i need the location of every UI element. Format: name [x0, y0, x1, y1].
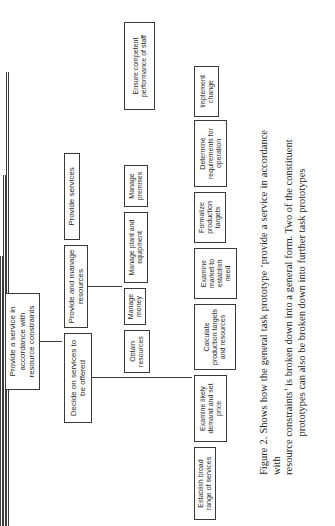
node-ensure-staff-label: Ensure competent performance of staff [132, 25, 148, 107]
node-manage-plant: Manage plant and equipment [124, 212, 148, 283]
figure-caption: Figure 2. Shows how the general task pro… [258, 130, 308, 475]
hierarchy-diagram: Provide a service in accordance with res… [0, 0, 335, 526]
node-decide-services: Decide on services to be offered [64, 333, 92, 423]
node-obtain-resources-label: Obtain resources [129, 333, 145, 370]
node-manage-plant-label: Manage plant and equipment [128, 215, 144, 280]
node-examine-demand-label: Examine likely demand and set price [199, 378, 223, 439]
node-provide-services: Provide services [64, 153, 80, 240]
node-obtain-resources: Obtain resources [124, 330, 150, 373]
node-manage-money: Manage money [124, 288, 146, 325]
node-provide-services-label: Provide services [67, 167, 77, 226]
decide-connector [92, 377, 192, 378]
resources-connector [88, 286, 122, 287]
node-manage-premises-label: Manage premises [128, 168, 144, 204]
node-manage-premises: Manage premises [124, 165, 148, 207]
root-connector-v [40, 341, 62, 342]
node-provide-manage-resources-label: Provide and manage resources [67, 248, 86, 325]
caption-line-2: resource constraints’ is broken down int… [283, 130, 296, 475]
node-calculate-targets: Calculate production targets and resourc… [194, 304, 236, 370]
root-node-label: Provide a service in accordance with res… [8, 296, 37, 387]
caption-line-1: Figure 2. Shows how the general task pro… [258, 130, 283, 475]
node-implement-change: Implement change [194, 66, 219, 117]
node-provide-manage-resources: Provide and manage resources [64, 245, 88, 328]
node-determine-requirements-label: Determine requirements for operation [199, 123, 223, 184]
node-examine-market-label: Examine market to establish need [200, 251, 232, 296]
node-manage-money-label: Manage money [127, 291, 143, 322]
node-formalize-targets-label: Formalize production targets [198, 195, 222, 240]
node-establish-range: Establish broad range of services [194, 447, 216, 520]
node-formalize-targets: Formalize production targets [194, 192, 226, 243]
node-ensure-staff: Ensure competent performance of staff [124, 22, 155, 110]
node-establish-range-label: Establish broad range of services [197, 450, 213, 517]
node-implement-change-label: Implement change [199, 69, 215, 114]
node-examine-demand: Examine likely demand and set price [194, 375, 227, 442]
node-examine-market: Examine market to establish need [194, 248, 237, 299]
node-decide-services-label: Decide on services to be offered [69, 336, 88, 420]
root-node: Provide a service in accordance with res… [5, 293, 40, 390]
node-determine-requirements: Determine requirements for operation [194, 120, 227, 187]
caption-line-3: prototypes can also be broken down into … [296, 130, 309, 475]
node-calculate-targets-label: Calculate production targets and resourc… [203, 307, 227, 367]
